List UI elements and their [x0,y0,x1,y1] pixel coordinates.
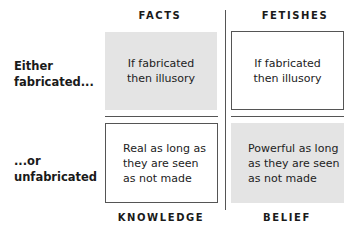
column-header-facts: FACTS [95,10,225,21]
cell-facts-fabricated-line1: If fabricated [127,56,195,71]
vertical-divider [225,10,226,210]
cell-fetishes-unfabricated-line1: Powerful as long [248,141,340,156]
row-label-unfabricated: ...or unfabricated [14,153,109,185]
cell-facts-unfabricated-line1: Real as long as [123,141,206,156]
cell-facts-fabricated: If fabricated then illusory [105,32,217,110]
divider-line-right [231,116,344,117]
cell-fetishes-unfabricated-line2: as they are seen [248,156,340,171]
column-footer-belief: BELIEF [222,212,352,223]
row-label-fabricated-line2: fabricated... [14,74,109,90]
cell-facts-unfabricated: Real as long as they are seen as not mad… [105,123,218,203]
cell-fetishes-unfabricated-line3: as not made [248,171,340,186]
divider-line-left [105,116,218,117]
column-header-fetishes: FETISHES [230,10,359,21]
cell-fetishes-fabricated: If fabricated then illusory [231,31,344,110]
row-label-unfabricated-line1: ...or [14,153,109,169]
cell-fetishes-fabricated-line1: If fabricated [253,56,321,71]
row-label-fabricated: Either fabricated... [14,58,109,90]
cell-fetishes-fabricated-line2: then illusory [253,71,321,86]
column-footer-knowledge: KNOWLEDGE [96,212,226,223]
cell-facts-unfabricated-line2: they are seen [123,156,206,171]
row-label-unfabricated-line2: unfabricated [14,169,109,185]
cell-facts-unfabricated-line3: as not made [123,171,206,186]
cell-facts-fabricated-line2: then illusory [127,71,195,86]
cell-fetishes-unfabricated: Powerful as long as they are seen as not… [231,123,344,203]
row-label-fabricated-line1: Either [14,58,109,74]
